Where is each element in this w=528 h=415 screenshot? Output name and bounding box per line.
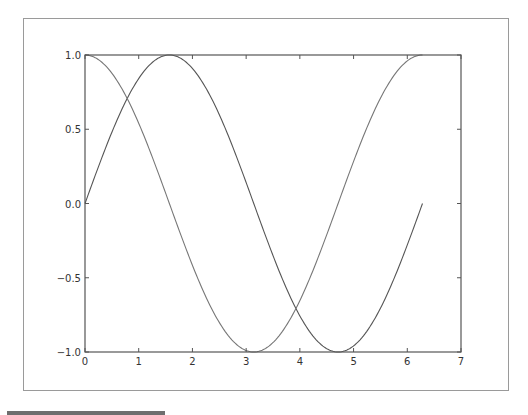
x-tick-label: 7 <box>458 356 464 367</box>
x-tick-label: 0 <box>82 356 88 367</box>
y-tick-label: −0.5 <box>57 273 81 284</box>
x-tick-label: 5 <box>350 356 356 367</box>
axes-box <box>85 55 461 352</box>
y-tick-label: 0.0 <box>65 199 81 210</box>
bottom-bar <box>7 411 165 415</box>
ticks-group: 012345671.00.50.0−0.5−1.0 <box>57 50 464 367</box>
y-tick-label: −1.0 <box>57 347 81 358</box>
x-tick-label: 3 <box>243 356 249 367</box>
x-tick-label: 1 <box>136 356 142 367</box>
series-line-sinx <box>85 55 423 352</box>
x-tick-label: 6 <box>404 356 410 367</box>
x-tick-label: 4 <box>297 356 303 367</box>
y-tick-label: 1.0 <box>65 50 81 61</box>
curves-group <box>85 55 423 352</box>
x-tick-label: 2 <box>189 356 195 367</box>
line-chart: 012345671.00.50.0−0.5−1.0 <box>0 0 528 415</box>
y-tick-label: 0.5 <box>65 124 81 135</box>
